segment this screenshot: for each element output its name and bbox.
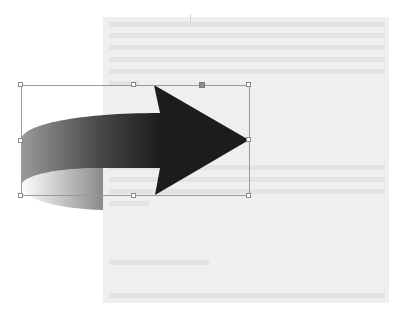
selection-box [21, 85, 250, 196]
resize-handle-middle-left[interactable] [18, 138, 23, 143]
resize-handle-top-center[interactable] [131, 82, 136, 87]
resize-handle-middle-right[interactable] [246, 137, 251, 142]
resize-handle-top-right[interactable] [246, 82, 251, 87]
resize-handle-bottom-center[interactable] [131, 193, 136, 198]
resize-handle-bottom-right[interactable] [246, 193, 251, 198]
resize-handle-top-left[interactable] [18, 82, 23, 87]
resize-handle-bottom-left[interactable] [18, 193, 23, 198]
rotate-handle[interactable] [199, 82, 205, 88]
